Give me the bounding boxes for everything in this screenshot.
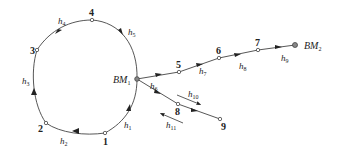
node-2	[44, 121, 47, 124]
benchmark-bm2	[293, 43, 298, 48]
benchmark-bm1	[135, 77, 140, 82]
segment-h3	[33, 50, 46, 123]
label-node-9: 9	[221, 121, 226, 132]
label-h8: h8	[239, 61, 247, 72]
label-node-2: 2	[38, 123, 43, 134]
label-node-1: 1	[103, 136, 108, 147]
label-node-3: 3	[30, 45, 35, 56]
label-h10: h10	[188, 89, 199, 100]
arrow-branch2-icon	[191, 108, 198, 112]
label-h7: h7	[199, 66, 207, 77]
label-node-8: 8	[175, 106, 180, 117]
node-3	[35, 48, 38, 51]
node-4	[90, 18, 93, 21]
label-h9: h9	[281, 53, 289, 64]
label-bm2: BM2	[304, 40, 321, 52]
label-h6: h6	[150, 81, 158, 92]
node-6	[217, 56, 220, 59]
label-node-7: 7	[255, 37, 260, 48]
segment-h1	[105, 79, 137, 133]
node-1	[103, 131, 106, 134]
arrow-h5-icon	[118, 28, 123, 35]
label-h5: h5	[128, 27, 136, 38]
node-7	[256, 48, 259, 51]
arrow-h4-icon	[55, 29, 62, 34]
label-node-5: 5	[176, 59, 181, 70]
h-labels: h1 h2 h3 h4 h5 h6 h7 h8 h9 h10 h11	[22, 16, 289, 147]
label-h2: h2	[60, 136, 68, 147]
label-h1: h1	[124, 120, 132, 131]
leveling-network-diagram: 1 2 3 4 5 6 7 8 9 BM1 BM2 h1 h2 h3 h4 h5…	[0, 0, 340, 156]
label-node-4: 4	[89, 7, 94, 18]
label-bm1: BM1	[113, 74, 130, 86]
nodes	[35, 18, 259, 134]
node-labels: 1 2 3 4 5 6 7 8 9	[30, 7, 260, 147]
segment-9	[178, 104, 220, 119]
node-5	[177, 70, 180, 73]
arrow-h9-icon	[275, 45, 282, 49]
diagram-svg: 1 2 3 4 5 6 7 8 9 BM1 BM2 h1 h2 h3 h4 h5…	[0, 0, 340, 156]
arrow-h3-icon	[31, 88, 37, 95]
label-node-6: 6	[216, 45, 221, 56]
label-h3: h3	[22, 76, 30, 87]
label-h4: h4	[58, 16, 66, 27]
label-h11: h11	[166, 120, 176, 131]
arrow-h1-icon	[126, 104, 131, 111]
